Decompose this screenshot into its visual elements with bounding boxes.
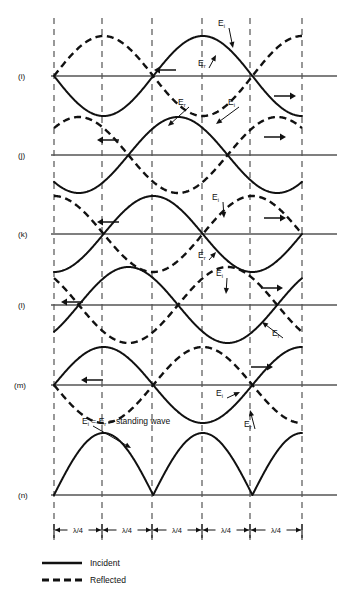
wave-row-n: (n)Ei = Er = standing wave bbox=[18, 416, 337, 500]
annotation-label-n-0: Ei = Er = standing wave bbox=[82, 416, 171, 427]
wave-row-j: (j)ErEi bbox=[18, 97, 337, 193]
scale-label-3: λ/4 bbox=[221, 526, 231, 535]
direction-arrow-left-m-0 bbox=[81, 377, 103, 384]
scale-segment-2: λ/4 bbox=[153, 526, 201, 535]
row-label-n: (n) bbox=[18, 491, 28, 500]
scale-segment-0: λ/4 bbox=[55, 526, 101, 535]
svg-text:Ei: Ei bbox=[216, 268, 223, 279]
annotation-leader-k-1 bbox=[209, 252, 216, 260]
svg-text:Ei = Er = standing wave: Ei = Er = standing wave bbox=[82, 416, 171, 427]
annotation-leader-i-0 bbox=[229, 28, 234, 48]
wave-row-m: (m)EiEr bbox=[14, 347, 337, 430]
svg-text:Ei: Ei bbox=[218, 18, 225, 29]
scale-label-4: λ/4 bbox=[271, 526, 281, 535]
direction-arrow-right-i-1 bbox=[274, 93, 296, 100]
annotation-label-k-0: Ei bbox=[212, 192, 219, 203]
figure-canvas: (i)EiEr(j)ErEi(k)EiEr(l)EiEr(m)EiEr(n)Ei… bbox=[0, 0, 341, 599]
svg-text:Ei: Ei bbox=[212, 192, 219, 203]
svg-text:Ei: Ei bbox=[216, 388, 223, 399]
row-label-k: (k) bbox=[18, 230, 28, 239]
scale-segment-1: λ/4 bbox=[103, 526, 151, 535]
wave-row-k: (k)EiEr bbox=[18, 192, 337, 272]
annotation-leader-l-0 bbox=[224, 278, 229, 294]
legend-item-incident: Incident bbox=[42, 558, 120, 568]
annotation-leader-i-1 bbox=[209, 55, 216, 68]
annotation-label-i-1: Er bbox=[198, 58, 206, 69]
annotation-label-m-0: Ei bbox=[216, 388, 223, 399]
annotation-label-k-1: Er bbox=[198, 250, 206, 261]
direction-arrow-left-j-0 bbox=[97, 137, 119, 144]
svg-text:Er: Er bbox=[178, 97, 186, 108]
row-label-i: (i) bbox=[18, 72, 25, 81]
row-label-l: (l) bbox=[18, 301, 25, 310]
annotation-leader-k-0 bbox=[221, 202, 226, 218]
direction-arrow-right-j-1 bbox=[264, 134, 286, 141]
annotation-label-i-0: Ei bbox=[218, 18, 225, 29]
annotation-leader-n-0 bbox=[93, 426, 131, 448]
svg-text:Er: Er bbox=[272, 328, 280, 339]
direction-arrow-right-k-1 bbox=[264, 215, 286, 222]
scale-bar-layer: λ/4λ/4λ/4λ/4λ/4 bbox=[54, 524, 302, 538]
annotation-leader-j-1 bbox=[216, 107, 239, 124]
legend-item-reflected: Reflected bbox=[42, 575, 126, 585]
annotation-leader-j-0 bbox=[168, 107, 189, 126]
svg-text:Er: Er bbox=[198, 58, 206, 69]
legend-layer: IncidentReflected bbox=[42, 558, 126, 585]
svg-text:Er: Er bbox=[198, 250, 206, 261]
wave-interference-figure: (i)EiEr(j)ErEi(k)EiEr(l)EiEr(m)EiEr(n)Ei… bbox=[0, 0, 341, 599]
legend-label-reflected: Reflected bbox=[90, 575, 126, 585]
annotation-label-m-1: Er bbox=[244, 419, 252, 430]
wave-row-l: (l)EiEr bbox=[18, 267, 337, 343]
direction-arrow-right-l-1 bbox=[261, 285, 283, 292]
row-label-m: (m) bbox=[14, 381, 26, 390]
annotation-label-l-1: Er bbox=[272, 328, 280, 339]
scale-label-0: λ/4 bbox=[73, 526, 83, 535]
scale-label-1: λ/4 bbox=[122, 526, 132, 535]
annotation-label-l-0: Ei bbox=[216, 268, 223, 279]
scale-label-2: λ/4 bbox=[172, 526, 182, 535]
scale-segment-3: λ/4 bbox=[203, 526, 249, 535]
svg-text:Er: Er bbox=[244, 419, 252, 430]
legend-label-incident: Incident bbox=[90, 558, 120, 568]
wave-rows-layer: (i)EiEr(j)ErEi(k)EiEr(l)EiEr(m)EiEr(n)Ei… bbox=[14, 18, 337, 500]
standing-wave-curve bbox=[54, 433, 302, 495]
annotation-label-j-0: Er bbox=[178, 97, 186, 108]
row-label-j: (j) bbox=[18, 151, 25, 160]
annotation-leader-m-0 bbox=[227, 392, 240, 398]
scale-segment-4: λ/4 bbox=[251, 526, 301, 535]
